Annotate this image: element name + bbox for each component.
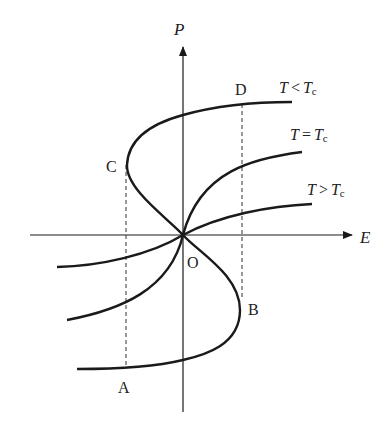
point-label-b: B: [248, 301, 259, 318]
label-t-below-tc: T<Tc: [279, 79, 317, 97]
origin-label: O: [187, 254, 199, 271]
p-axis-label: P: [173, 20, 184, 39]
pe-diagram: P E O A B C D T<Tc T=Tc T>Tc: [0, 0, 388, 428]
point-label-d: D: [235, 81, 247, 98]
label-t-above-tc: T>Tc: [307, 181, 345, 199]
point-label-a: A: [118, 379, 130, 396]
e-axis-label: E: [359, 228, 371, 247]
label-t-equal-tc: T=Tc: [290, 126, 328, 144]
point-label-c: C: [106, 158, 117, 175]
